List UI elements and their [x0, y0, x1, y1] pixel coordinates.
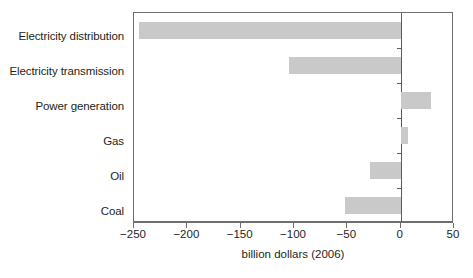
x-tick-label: −100: [268, 228, 318, 241]
x-axis-line: [133, 222, 453, 223]
zero-tick: [397, 83, 401, 84]
category-label-electricity-transmission: Electricity transmission: [9, 65, 124, 77]
zero-tick: [397, 48, 401, 49]
category-label-power-generation: Power generation: [35, 100, 124, 112]
x-tick-label: −200: [161, 228, 211, 241]
x-tick-label: −250: [108, 228, 158, 241]
bar: [345, 197, 400, 214]
zero-tick: [397, 188, 401, 189]
x-axis-title: billion dollars (2006): [133, 248, 453, 261]
bar: [370, 162, 401, 179]
zero-axis-line: [401, 13, 402, 223]
category-label-electricity-distribution: Electricity distribution: [18, 30, 124, 42]
category-label-coal: Coal: [101, 205, 124, 217]
category-label-gas: Gas: [103, 135, 124, 147]
bar: [139, 22, 400, 39]
zero-tick: [397, 118, 401, 119]
x-tick-label: 0: [375, 228, 425, 241]
zero-tick: [397, 153, 401, 154]
x-tick-label: −150: [215, 228, 265, 241]
bar: [401, 92, 431, 109]
bar: [401, 127, 408, 144]
x-tick-label: 50: [428, 228, 473, 241]
x-tick-label: −50: [321, 228, 371, 241]
category-label-oil: Oil: [110, 170, 124, 182]
plot-area: [133, 12, 453, 222]
bar-chart: Electricity distribution Electricity tra…: [0, 0, 473, 278]
category-axis-labels: Electricity distribution Electricity tra…: [0, 12, 128, 222]
bar: [289, 57, 401, 74]
